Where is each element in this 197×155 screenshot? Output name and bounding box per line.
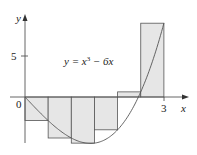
- origin-label: 0: [16, 98, 22, 110]
- riemann-rectangle: [118, 92, 141, 97]
- x-tick-label-3: 3: [161, 102, 167, 114]
- x-axis-arrow-icon: [182, 95, 189, 100]
- y-axis-label: y: [15, 12, 21, 24]
- x-axis-label: x: [180, 102, 186, 114]
- y-tick-label-5: 5: [11, 50, 17, 62]
- riemann-rectangle: [48, 97, 71, 138]
- equation-label: y = x3 − 6x: [63, 55, 114, 67]
- riemann-rectangle: [94, 97, 117, 130]
- y-axis-arrow-icon: [23, 14, 28, 21]
- riemann-rectangle: [71, 97, 94, 143]
- riemann-sum-diagram: y x 0 3 5 y = x3 − 6x: [0, 0, 197, 155]
- riemann-rectangles: [25, 23, 164, 143]
